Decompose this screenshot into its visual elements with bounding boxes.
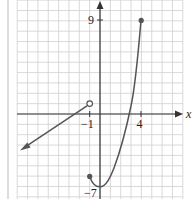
closed-point-start	[87, 174, 92, 179]
y-axis-arrow-icon	[97, 1, 104, 9]
x-tick-label-neg1: −1	[81, 117, 94, 131]
x-tick-label-4: 4	[137, 117, 143, 131]
x-axis-arrow-icon	[175, 111, 183, 118]
closed-point-end	[139, 18, 144, 23]
x-axis-label: x	[185, 107, 192, 121]
open-point	[87, 101, 93, 107]
linear-piece	[28, 106, 87, 145]
y-tick-label-neg7: −7	[84, 186, 97, 199]
function-graph: x 9 4 −1 −7	[0, 0, 195, 199]
y-tick-label-9: 9	[88, 13, 94, 27]
